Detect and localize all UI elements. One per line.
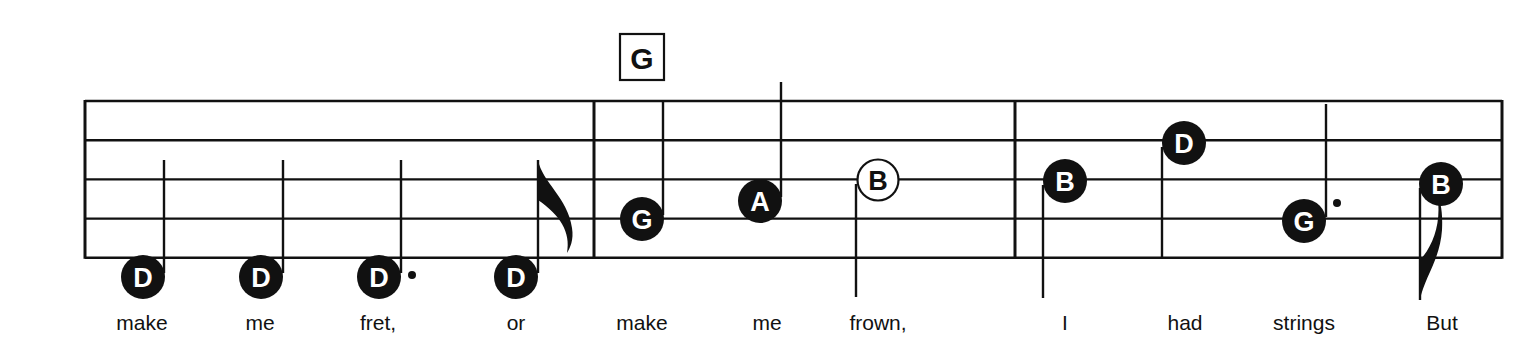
note-flag xyxy=(1420,194,1442,300)
note-d: D xyxy=(494,160,573,299)
dot xyxy=(1333,199,1341,207)
note-d: D xyxy=(239,160,283,299)
note-g: G xyxy=(1282,104,1341,243)
lyric-word: fret, xyxy=(360,311,396,334)
lyrics: makemefret,ormakemefrown,IhadstringsBut xyxy=(116,311,1458,334)
note-letter: D xyxy=(506,263,526,293)
note-letter: B xyxy=(1055,167,1075,197)
lyric-word: me xyxy=(752,311,781,334)
lyric-word: make xyxy=(116,311,167,334)
note-letter: B xyxy=(868,166,888,196)
note-letter: B xyxy=(1431,170,1451,200)
note-letter: D xyxy=(369,263,389,293)
note-g: G xyxy=(620,102,664,241)
note-b: B xyxy=(1043,159,1087,298)
note-a: A xyxy=(738,82,782,223)
lyric-word: But xyxy=(1426,311,1458,334)
note-d: D xyxy=(357,160,416,299)
lyric-word: strings xyxy=(1273,311,1335,334)
dot xyxy=(408,271,416,279)
note-letter: D xyxy=(133,263,153,293)
note-flag xyxy=(538,160,573,253)
chord-symbols: G xyxy=(620,34,664,80)
music-staff: G DDDDGABBDGB makemefret,ormakemefrown,I… xyxy=(0,0,1521,357)
note-b: B xyxy=(1419,162,1463,300)
lyric-word: had xyxy=(1167,311,1202,334)
notes: DDDDGABBDGB xyxy=(121,82,1463,300)
lyric-word: frown, xyxy=(849,311,906,334)
note-letter: G xyxy=(631,205,652,235)
note-d: D xyxy=(1162,121,1206,258)
chord-symbol: G xyxy=(620,34,664,80)
lyric-word: me xyxy=(245,311,274,334)
note-d: D xyxy=(121,160,165,299)
svg-text:G: G xyxy=(630,42,653,75)
note-letter: D xyxy=(251,263,271,293)
note-letter: D xyxy=(1174,129,1194,159)
lyric-word: or xyxy=(507,311,526,334)
note-letter: A xyxy=(750,187,770,217)
note-letter: G xyxy=(1293,207,1314,237)
lyric-word: make xyxy=(616,311,667,334)
lyric-word: I xyxy=(1062,311,1068,334)
note-b: B xyxy=(856,160,899,298)
